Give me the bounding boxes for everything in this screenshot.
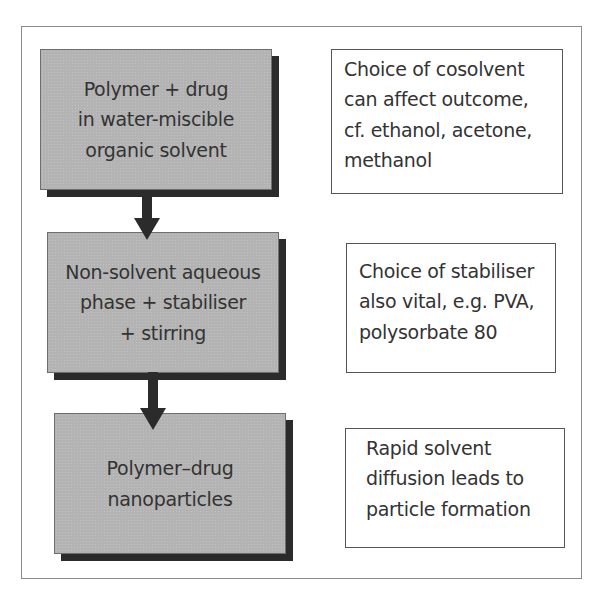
step-1-line-2: in water-miscible <box>78 104 234 134</box>
note-2-box: Choice of stabiliser also vital, e.g. PV… <box>346 243 556 373</box>
note-1-line-1: Choice of cosolvent <box>344 54 552 84</box>
step-2-line-3: + stirring <box>65 318 260 348</box>
note-3-line-1: Rapid solvent <box>366 433 554 463</box>
down-arrow-icon <box>134 190 160 242</box>
step-3-line-2: nanoparticles <box>107 484 234 514</box>
step-1-box: Polymer + drug in water-miscible organic… <box>40 49 272 190</box>
note-3-line-3: particle formation <box>366 494 554 524</box>
note-2-line-3: polysorbate 80 <box>359 317 545 347</box>
step-2-line-2: phase + stabiliser <box>65 287 260 317</box>
step-3-box: Polymer–drug nanoparticles <box>54 413 286 554</box>
note-3-line-2: diffusion leads to <box>366 463 554 493</box>
note-3-box: Rapid solvent diffusion leads to particl… <box>345 428 565 548</box>
step-2-box: Non-solvent aqueous phase + stabiliser +… <box>47 232 279 373</box>
note-1-line-2: can affect outcome, <box>344 84 552 114</box>
step-3-line-1: Polymer–drug <box>107 453 234 483</box>
step-2-line-1: Non-solvent aqueous <box>65 257 260 287</box>
step-1-line-3: organic solvent <box>78 135 234 165</box>
note-1-line-4: methanol <box>344 145 552 175</box>
note-1-line-3: cf. ethanol, acetone, <box>344 115 552 145</box>
note-1-box: Choice of cosolvent can affect outcome, … <box>331 49 563 194</box>
note-2-line-2: also vital, e.g. PVA, <box>359 286 545 316</box>
down-arrow-icon <box>140 372 166 436</box>
note-2-line-1: Choice of stabiliser <box>359 256 545 286</box>
step-1-line-1: Polymer + drug <box>78 74 234 104</box>
